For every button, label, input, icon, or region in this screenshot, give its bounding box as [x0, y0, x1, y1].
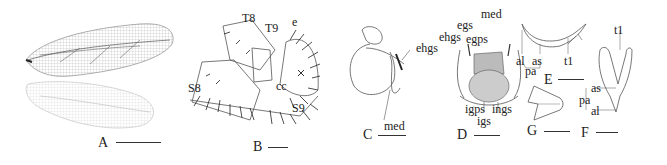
scale-bar-a	[116, 142, 161, 143]
scale-bar-d	[474, 135, 500, 136]
label-s9: S9	[292, 102, 305, 114]
panel-f-ventral: t1 as pa al F	[580, 0, 667, 165]
panel-b-terminalia: T8 T9 e cc S8 S9 B	[190, 0, 320, 165]
label-ehgs-d: ehgs	[439, 31, 461, 43]
label-pa-f: pa	[579, 94, 590, 106]
panel-label-b: B	[253, 140, 262, 154]
label-pa-e: pa	[525, 65, 536, 77]
panel-label-d: D	[457, 128, 467, 142]
panel-label-g: G	[527, 124, 537, 138]
label-t8: T8	[242, 12, 255, 24]
label-med-c: med	[384, 120, 405, 132]
label-t1-e: t1	[564, 55, 573, 67]
label-al-e: al	[516, 55, 525, 67]
scale-bar-b	[268, 147, 288, 148]
label-s8: S8	[188, 82, 201, 94]
label-ehgs-c: ehgs	[416, 42, 438, 54]
genitalia-lateral-illustration	[310, 0, 410, 165]
label-cc: cc	[276, 80, 287, 92]
label-as-f: as	[591, 82, 601, 94]
scale-bar-g	[544, 131, 570, 132]
label-al-f: al	[591, 105, 600, 117]
scale-bar-c	[378, 135, 406, 136]
label-ings: ings	[492, 103, 512, 115]
label-t1-f: t1	[614, 24, 623, 36]
label-t9: T9	[265, 22, 278, 34]
panel-label-a: A	[98, 136, 108, 150]
panel-label-f: F	[581, 126, 589, 140]
panel-label-c: C	[363, 128, 372, 142]
scale-bar-f	[596, 132, 618, 133]
label-e: e	[292, 16, 297, 28]
label-igs: igs	[477, 115, 491, 127]
wings-illustration	[0, 0, 190, 165]
genitalia-dorsal-illustration	[440, 0, 530, 165]
label-med-d: med	[481, 8, 502, 20]
panel-a-wings: A	[0, 0, 190, 165]
panel-d-genitalia-dorsal: med egs ehgs egps igps ings igs D	[440, 0, 530, 165]
label-egps: egps	[466, 33, 488, 45]
panel-c-genitalia-lateral: med C	[310, 0, 410, 165]
